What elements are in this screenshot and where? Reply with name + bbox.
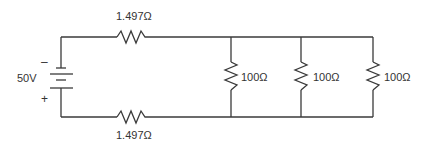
resistor-icon-parallel-3 — [367, 62, 379, 90]
voltage-label: 50V — [17, 72, 37, 84]
negative-terminal-label: – — [41, 55, 48, 69]
parallel-resistor-3-label: 100Ω — [384, 71, 411, 83]
bottom-series-resistor-label: 1.497Ω — [116, 129, 152, 141]
resistor-icon-parallel-1 — [225, 62, 237, 90]
resistor-icon-parallel-2 — [295, 62, 307, 90]
parallel-branch-1: 100Ω — [225, 37, 268, 117]
positive-terminal-label: + — [41, 92, 48, 106]
circuit-diagram: – 50V + 1.497Ω 1.497Ω 100Ω 100Ω 100Ω — [0, 0, 436, 149]
parallel-branch-3: 100Ω — [367, 37, 411, 117]
bottom-rail: 1.497Ω — [61, 111, 373, 141]
resistor-icon-top-series — [117, 31, 148, 43]
battery-icon — [50, 68, 73, 88]
parallel-branch-2: 100Ω — [295, 37, 340, 117]
resistor-icon-bottom-series — [117, 111, 148, 123]
battery-branch: – 50V + — [17, 37, 73, 117]
parallel-resistor-2-label: 100Ω — [313, 71, 340, 83]
parallel-resistor-1-label: 100Ω — [241, 71, 268, 83]
top-series-resistor-label: 1.497Ω — [116, 10, 152, 22]
top-rail: 1.497Ω — [61, 10, 373, 43]
